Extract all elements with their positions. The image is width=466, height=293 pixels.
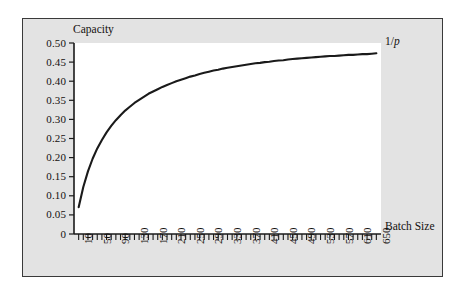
x-tick-label: 570: [344, 228, 355, 245]
y-tick-label: 0.15: [22, 171, 66, 182]
x-tick-label: 490: [306, 228, 317, 245]
x-tick-label: 10: [83, 233, 94, 244]
x-tick-label: 610: [362, 228, 373, 245]
y-tick-label: 0.30: [22, 114, 66, 125]
y-tick-label: 0.45: [22, 57, 66, 68]
x-tick-label: 450: [288, 228, 299, 245]
y-tick-label: 0.10: [22, 190, 66, 201]
x-tick-label: 170: [158, 228, 169, 245]
y-tick-label: 0.35: [22, 95, 66, 106]
y-tick-label: 0.05: [22, 209, 66, 220]
x-tick-label: 290: [213, 228, 224, 245]
y-tick-label: 0.25: [22, 133, 66, 144]
x-tick-label: 50: [102, 233, 113, 244]
x-tick-label: 410: [269, 228, 280, 245]
x-tick-label: 130: [139, 228, 150, 245]
x-tick-label: 330: [232, 228, 243, 245]
x-tick-label: 530: [325, 228, 336, 245]
x-tick-label: 90: [120, 233, 131, 244]
asymptote-symbol: p: [394, 35, 400, 47]
y-tick-label: 0.50: [22, 38, 66, 49]
asymptote-annotation: 1/p: [385, 35, 400, 47]
x-axis-title: Batch Size: [385, 220, 435, 232]
y-tick-label: 0.40: [22, 76, 66, 87]
x-tick-label: 370: [251, 228, 262, 245]
y-tick-label: 0.20: [22, 152, 66, 163]
asymptote-prefix: 1/: [385, 35, 394, 47]
y-tick-label: 0: [22, 229, 66, 240]
x-tick-label: 250: [195, 228, 206, 245]
capacity-curve: [79, 53, 377, 207]
figure-panel: Capacity 0.500.450.400.350.300.250.200.1…: [22, 18, 443, 277]
x-tick-label: 210: [176, 228, 187, 245]
